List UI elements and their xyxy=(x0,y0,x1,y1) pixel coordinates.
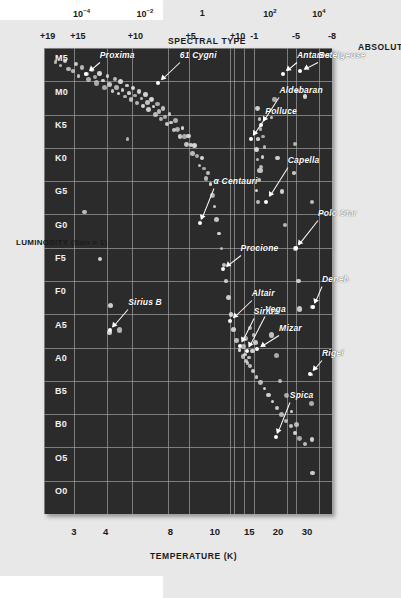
named-star-point xyxy=(298,69,302,73)
star-data-point xyxy=(125,84,129,88)
star-data-point xyxy=(213,205,216,208)
magnitude-tick-p5: +5 xyxy=(185,31,195,41)
named-star-point xyxy=(228,319,232,323)
spectral-tick-k5: K5 xyxy=(55,120,67,130)
star-data-point xyxy=(71,69,75,73)
named-star-point xyxy=(84,72,88,76)
star-data-point xyxy=(255,375,258,378)
star-data-point xyxy=(209,182,213,186)
star-data-point xyxy=(80,65,85,70)
star-label-aldebaran: Aldebaran xyxy=(279,85,322,95)
spectral-tick-o0: O0 xyxy=(55,486,67,496)
temperature-tick-10: 10 xyxy=(209,526,220,537)
star-data-point xyxy=(310,471,314,475)
gridline-horizontal xyxy=(44,314,332,315)
spectral-tick-g0: G0 xyxy=(55,220,67,230)
spectral-tick-a5: A5 xyxy=(55,320,67,330)
gridline-horizontal xyxy=(44,48,332,49)
spectral-tick-b0: B0 xyxy=(55,419,67,429)
star-data-point xyxy=(204,176,208,180)
star-data-point xyxy=(161,106,165,110)
temperature-tick-4: 4 xyxy=(103,526,108,537)
star-data-point xyxy=(140,97,144,101)
star-data-point xyxy=(297,436,302,441)
star-data-point xyxy=(101,79,104,82)
star-label-rigel: Rigel xyxy=(322,348,344,358)
star-data-point xyxy=(255,106,260,111)
star-data-point xyxy=(283,223,287,227)
star-data-point xyxy=(256,200,260,204)
named-star-point xyxy=(274,435,278,439)
star-data-point xyxy=(255,189,258,192)
star-data-point xyxy=(114,85,119,90)
star-data-point xyxy=(289,424,293,428)
star-label-capella: Capella xyxy=(288,155,320,165)
luminosity-tick-3: 102 xyxy=(263,8,276,19)
star-data-point xyxy=(74,62,78,66)
star-label-sirius-b: Sirius B xyxy=(128,297,162,307)
star-data-point xyxy=(250,349,254,353)
star-data-point xyxy=(220,247,223,250)
star-data-point xyxy=(310,200,314,204)
star-data-point xyxy=(296,279,301,284)
star-data-point xyxy=(97,71,102,76)
star-data-point xyxy=(214,217,219,222)
star-data-point xyxy=(271,400,274,403)
star-data-point xyxy=(181,126,184,129)
star-data-point xyxy=(94,80,99,85)
star-data-point xyxy=(163,115,167,119)
gridline-horizontal xyxy=(44,447,332,448)
star-data-point xyxy=(275,406,279,410)
star-data-point xyxy=(77,74,80,77)
star-data-point xyxy=(152,105,155,108)
temperature-tick-15: 15 xyxy=(244,526,255,537)
star-data-point xyxy=(297,306,302,311)
spectral-tick-m0: M0 xyxy=(55,87,68,97)
luminosity-axis-title: LUMINOSITY (Sun = 1) xyxy=(16,238,107,247)
star-data-point xyxy=(195,154,199,158)
spectral-tick-f0: F0 xyxy=(55,286,66,296)
star-data-point xyxy=(266,393,270,397)
spectral-tick-m5: M5 xyxy=(55,53,68,63)
named-star-point xyxy=(198,221,202,225)
star-data-point xyxy=(258,380,263,385)
named-star-point xyxy=(255,347,259,351)
star-data-point xyxy=(59,64,62,67)
temperature-axis-title: TEMPERATURE (K) xyxy=(150,551,237,561)
star-data-point xyxy=(238,348,241,351)
star-data-point xyxy=(275,156,280,161)
star-data-point xyxy=(108,303,113,308)
star-data-point xyxy=(137,89,142,94)
star-data-point xyxy=(293,431,297,435)
luminosity-tick-0: 10−4 xyxy=(73,8,90,19)
star-data-point xyxy=(117,92,120,95)
spectral-tick-k0: K0 xyxy=(55,153,67,163)
star-data-point xyxy=(102,85,107,90)
star-data-point xyxy=(234,338,239,343)
star-data-point xyxy=(270,116,273,119)
star-data-point xyxy=(113,77,117,81)
star-data-point xyxy=(131,86,135,90)
star-data-point xyxy=(278,379,282,383)
star-label-polo-star: Polo Star xyxy=(318,208,357,218)
star-data-point xyxy=(117,327,122,332)
star-data-point xyxy=(184,142,189,147)
star-data-point xyxy=(256,137,260,141)
luminosity-tick-2: 1 xyxy=(200,8,205,18)
star-label-proxima: Proxima xyxy=(100,50,135,60)
luminosity-tick-1: 10−2 xyxy=(136,8,153,19)
star-data-point xyxy=(82,210,87,215)
magnitude-tick-m1: -1 xyxy=(250,31,258,41)
star-data-point xyxy=(93,75,97,79)
star-data-point xyxy=(294,422,299,427)
named-star-point xyxy=(311,305,315,309)
star-label-61-cygni: 61 Cygni xyxy=(180,50,217,60)
temperature-tick-30: 30 xyxy=(302,526,313,537)
gridline-horizontal xyxy=(44,414,332,415)
star-label-deneb: Deneb xyxy=(322,274,349,284)
star-label-altair: Altair xyxy=(252,288,275,298)
magnitude-tick-p1: +1 xyxy=(230,31,240,41)
star-data-point xyxy=(66,67,70,71)
magnitude-tick-p15: +15 xyxy=(70,31,85,41)
named-star-point xyxy=(281,72,285,76)
